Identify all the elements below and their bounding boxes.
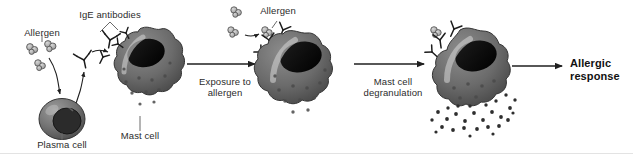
label-plasma-cell: Plasma cell xyxy=(25,139,99,150)
allergen-particle-cluster-icon xyxy=(27,41,56,71)
leader-line-allergen-middle xyxy=(272,21,277,28)
bound-allergen-icon xyxy=(431,27,442,38)
allergen-exposure-graphic xyxy=(225,0,355,154)
label-ige-antibodies: IgE antibodies xyxy=(62,9,158,20)
label-allergen-middle: Allergen xyxy=(245,5,311,16)
straight-arrow-right-icon xyxy=(510,60,572,74)
allergen-particle-cluster-icon xyxy=(228,7,242,38)
stage-allergen-exposure xyxy=(225,0,355,154)
degranulation-graphic xyxy=(420,0,545,154)
mast-cell-resting-icon xyxy=(112,27,184,105)
label-allergen-left: Allergen xyxy=(8,27,76,38)
allergy-pathway-figure: Allergen IgE antibodies Plasma cell Mast… xyxy=(0,0,633,154)
step-arrow-allergic-response xyxy=(510,60,572,74)
curved-arrow-allergen-to-plasma-cell xyxy=(49,58,60,94)
mast-cell-bound-icon xyxy=(254,31,332,114)
mast-cell-degranulating-icon xyxy=(432,28,510,106)
label-mast-cell: Mast cell xyxy=(105,130,175,141)
label-allergic-response: Allergic response xyxy=(570,57,632,83)
stage-degranulation xyxy=(420,0,545,154)
curved-arrow-allergen-binding xyxy=(245,34,259,36)
